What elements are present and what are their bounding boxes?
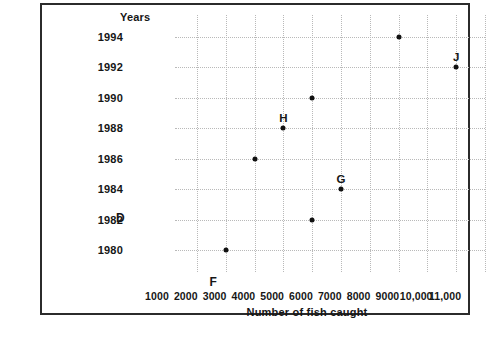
gridline-horizontal <box>175 250 485 251</box>
gridline-vertical <box>485 15 486 272</box>
x-axis-title: Number of fish caught <box>42 306 494 318</box>
gridline-horizontal <box>175 159 485 160</box>
gridline-horizontal <box>175 98 485 99</box>
y-tick-label: 1980 <box>98 244 123 256</box>
y-tick-label: 1990 <box>98 92 123 104</box>
y-tick-label: 1988 <box>98 122 123 134</box>
x-tick-label: 6000 <box>289 290 313 302</box>
x-tick-label: 8000 <box>347 290 371 302</box>
gridline-vertical <box>283 15 284 272</box>
x-tick-label: 4000 <box>232 290 256 302</box>
x-tick-label: 10,000 <box>400 290 433 302</box>
data-point-label: G <box>336 173 345 185</box>
x-tick-label: 2000 <box>174 290 198 302</box>
plot-area: GHJ <box>175 37 485 250</box>
gridline-vertical <box>370 15 371 272</box>
data-point-label: H <box>279 112 288 124</box>
data-point <box>396 35 401 40</box>
gridline-horizontal <box>175 189 485 190</box>
gridline-vertical <box>399 15 400 272</box>
chart-annotation-label: F <box>210 275 218 289</box>
data-point <box>454 65 459 70</box>
x-tick-label: 11,000 <box>429 290 461 302</box>
gridline-horizontal <box>175 128 485 129</box>
x-tick-label: 7000 <box>318 290 342 302</box>
data-point <box>223 248 228 253</box>
gridline-vertical <box>226 15 227 272</box>
x-tick-label: 5000 <box>260 290 284 302</box>
x-tick-label: 3000 <box>203 290 227 302</box>
x-tick-label: 1000 <box>145 290 169 302</box>
data-point-label: J <box>453 51 460 63</box>
gridline-horizontal <box>175 220 485 221</box>
gridline-vertical <box>427 15 428 272</box>
gridline-vertical <box>341 15 342 272</box>
data-point <box>252 156 257 161</box>
data-point <box>339 187 344 192</box>
gridline-vertical <box>197 15 198 272</box>
y-tick-label: 1984 <box>98 183 123 195</box>
data-point <box>281 126 286 131</box>
data-point <box>310 217 315 222</box>
chart-frame: Years GHJ 198019821984198619881990199219… <box>40 3 470 315</box>
gridline-horizontal <box>175 67 485 68</box>
y-tick-label: 1994 <box>98 31 123 43</box>
chart-annotation-label: D <box>116 211 125 225</box>
y-axis-title: Years <box>120 11 150 23</box>
y-tick-label: 1986 <box>98 153 123 165</box>
gridline-vertical <box>312 15 313 272</box>
data-point <box>310 95 315 100</box>
x-tick-label: 9000 <box>376 290 400 302</box>
y-tick-label: 1992 <box>98 61 123 73</box>
x-axis-title-text: Number of fish caught <box>247 306 368 318</box>
gridline-horizontal <box>175 37 485 38</box>
gridline-vertical <box>255 15 256 272</box>
